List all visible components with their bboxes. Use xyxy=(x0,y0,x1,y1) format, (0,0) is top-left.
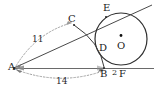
point-label-D: D xyxy=(99,43,107,53)
measure-label-AC: 11 xyxy=(32,35,43,44)
point-label-F: F xyxy=(119,69,126,79)
measure-label-AB: 14 xyxy=(56,77,67,86)
point-label-O: O xyxy=(117,41,125,51)
measure-label-BF: 2 xyxy=(112,69,117,77)
geometry-figure: A B C D E F O 11 14 2 xyxy=(0,0,160,91)
circle-O xyxy=(95,13,147,65)
point-marker-C xyxy=(73,24,75,26)
point-label-B: B xyxy=(100,69,107,79)
point-marker-E xyxy=(105,16,107,18)
point-label-A: A xyxy=(8,62,15,72)
point-label-E: E xyxy=(103,3,110,13)
point-label-C: C xyxy=(68,14,76,24)
figure-canvas xyxy=(0,0,160,91)
measure-arc-AC xyxy=(16,23,71,66)
center-dot-O xyxy=(120,34,123,37)
